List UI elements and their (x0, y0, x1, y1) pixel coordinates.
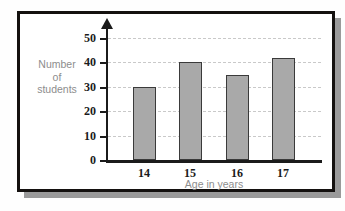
y-axis-line (106, 26, 108, 162)
bar-age-15[interactable] (179, 62, 202, 160)
y-axis-arrow-icon (101, 18, 113, 29)
y-tick-label-10: 10 (68, 130, 96, 142)
y-tick-mark-40 (100, 62, 106, 64)
y-tick-mark-30 (100, 87, 106, 89)
y-tick-mark-0 (100, 160, 106, 162)
bar-chart-plot-area: 50 40 30 20 10 0 Number of students (20, 14, 332, 189)
y-axis-title-line-3: students (26, 83, 88, 96)
y-axis-title-line-2: of (26, 71, 88, 84)
y-tick-label-50: 50 (68, 32, 96, 44)
x-axis-line (106, 160, 322, 163)
gridline-50 (108, 38, 321, 39)
scan-page: 50 40 30 20 10 0 Number of students (0, 0, 345, 211)
x-axis-title: Age in years (106, 178, 322, 190)
y-tick-mark-10 (100, 136, 106, 138)
y-tick-mark-50 (100, 38, 106, 40)
y-tick-label-20: 20 (68, 105, 96, 117)
y-axis-title-line-1: Number (26, 58, 88, 71)
figure-frame: 50 40 30 20 10 0 Number of students (17, 11, 335, 192)
y-tick-mark-20 (100, 111, 106, 113)
bar-age-14[interactable] (133, 87, 156, 160)
y-axis-title: Number of students (26, 58, 88, 96)
y-tick-label-0: 0 (68, 154, 96, 166)
bar-age-16[interactable] (226, 75, 249, 160)
bar-age-17[interactable] (272, 58, 295, 161)
